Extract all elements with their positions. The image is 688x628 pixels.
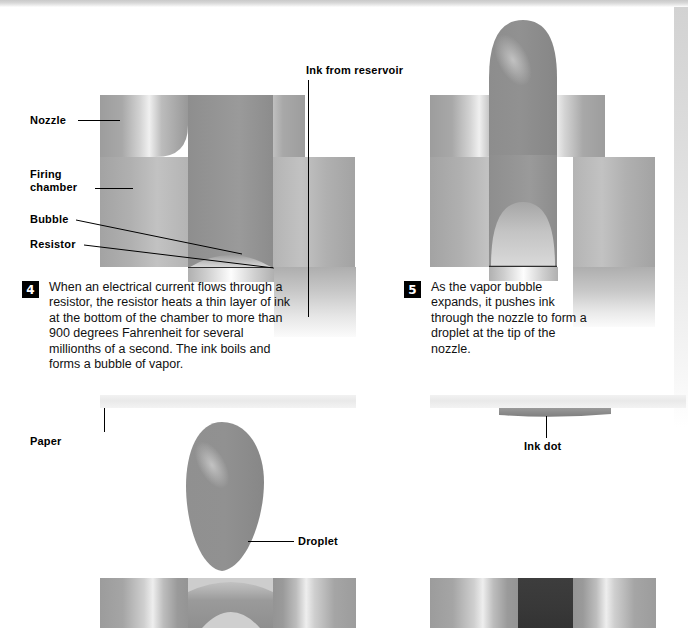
leader-ink-dot bbox=[546, 416, 547, 438]
label-resistor: Resistor bbox=[30, 238, 76, 251]
flying-droplet bbox=[186, 420, 286, 580]
step5-caption: As the vapor bubble expands, it pushes i… bbox=[431, 280, 596, 357]
leader-firing-chamber bbox=[95, 188, 133, 189]
ink-dot bbox=[497, 406, 617, 422]
paper-strip-left bbox=[100, 395, 356, 408]
top-border-band bbox=[0, 0, 688, 7]
bottom-left-meniscus bbox=[188, 578, 274, 628]
bottom-right-dark-ink-column bbox=[518, 578, 573, 628]
step5-resistor-glow bbox=[489, 267, 558, 281]
leader-nozzle bbox=[78, 120, 120, 121]
leader-ink-from-reservoir bbox=[308, 80, 309, 317]
label-ink-dot: Ink dot bbox=[524, 440, 561, 453]
label-bubble: Bubble bbox=[30, 213, 68, 226]
leader-droplet bbox=[248, 541, 294, 542]
label-paper: Paper bbox=[30, 435, 62, 448]
leader-resistor bbox=[84, 243, 284, 278]
step4-chamber-right-wall bbox=[273, 157, 355, 267]
label-ink-from-reservoir: Ink from reservoir bbox=[306, 64, 403, 77]
leader-paper bbox=[104, 408, 105, 432]
diagram-canvas: Nozzle Firing chamber Bubble Resistor In… bbox=[0, 0, 688, 628]
label-firing-chamber: Firing chamber bbox=[30, 168, 77, 194]
step5-badge: 5 bbox=[404, 281, 421, 298]
step4-badge: 4 bbox=[22, 281, 39, 298]
step5-vapor-bubble bbox=[489, 196, 559, 270]
step4-caption: When an electrical current flows through… bbox=[49, 280, 299, 372]
label-droplet: Droplet bbox=[298, 535, 338, 548]
label-nozzle: Nozzle bbox=[30, 114, 66, 127]
